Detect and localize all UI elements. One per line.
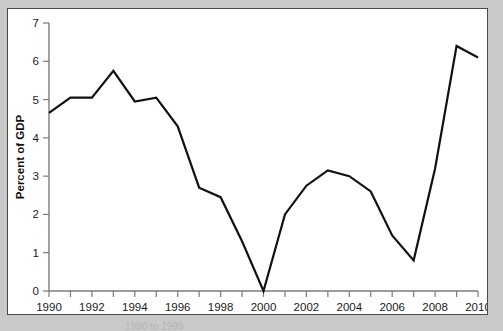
- line-chart: 01234567 1990199219941996199820002002200…: [8, 9, 487, 314]
- caption-text: 1990 to 1999: [125, 321, 183, 331]
- y-tick-label-3: 3: [33, 170, 39, 182]
- series-percent-of-gdp: [49, 46, 478, 291]
- chart-tick-marks: [43, 23, 478, 297]
- y-tick-label-6: 6: [33, 55, 39, 67]
- y-tick-label-5: 5: [33, 94, 39, 106]
- y-tick-label-0: 0: [33, 285, 39, 297]
- x-tick-label-1992: 1992: [79, 301, 105, 313]
- x-tick-label-2010: 2010: [465, 301, 487, 313]
- x-tick-label-1996: 1996: [165, 301, 191, 313]
- y-axis-tick-labels: 01234567: [33, 17, 40, 297]
- caption-strip: 1990 to 1999: [7, 318, 488, 331]
- chart-axes: [49, 23, 478, 291]
- x-tick-label-1998: 1998: [208, 301, 234, 313]
- chart-figure-panel: 01234567 1990199219941996199820002002200…: [7, 8, 488, 315]
- x-tick-label-2008: 2008: [422, 301, 448, 313]
- x-tick-label-2002: 2002: [294, 301, 320, 313]
- x-tick-label-1990: 1990: [36, 301, 62, 313]
- y-tick-label-7: 7: [33, 17, 39, 29]
- data-series-line: [49, 46, 478, 291]
- x-tick-label-2004: 2004: [337, 301, 363, 313]
- y-tick-label-1: 1: [33, 247, 39, 259]
- x-tick-label-2006: 2006: [379, 301, 405, 313]
- x-tick-label-1994: 1994: [122, 301, 148, 313]
- y-axis-title-text: Percent of GDP: [14, 114, 26, 199]
- x-tick-label-2000: 2000: [251, 301, 277, 313]
- y-tick-label-4: 4: [33, 132, 40, 144]
- y-axis-title: Percent of GDP: [14, 114, 26, 199]
- x-axis-tick-labels: 1990199219941996199820002002200420062008…: [36, 301, 487, 313]
- y-tick-label-2: 2: [33, 208, 39, 220]
